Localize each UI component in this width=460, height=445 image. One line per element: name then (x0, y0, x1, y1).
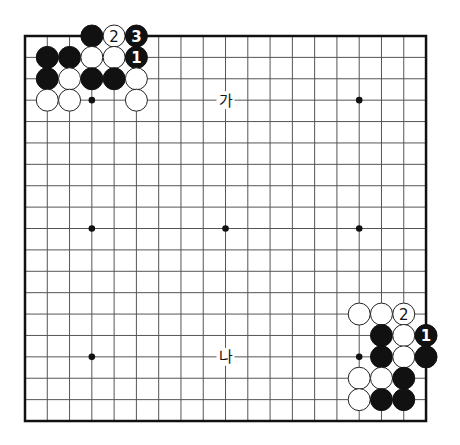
white-stone: 2 (393, 303, 415, 325)
white-stone (59, 68, 81, 90)
white-stone (81, 46, 103, 68)
white-stone-icon (103, 46, 125, 68)
white-stone: 2 (103, 25, 125, 47)
black-stone: 3 (125, 25, 147, 47)
black-stone-icon (415, 346, 437, 368)
move-number: 1 (421, 327, 431, 345)
black-stone (393, 367, 415, 389)
black-stone-icon (36, 46, 58, 68)
black-stone: 1 (415, 324, 437, 346)
star-point (89, 97, 96, 104)
star-point (89, 354, 96, 361)
white-stone (125, 89, 147, 111)
white-stone (348, 389, 370, 411)
white-stone-icon (370, 303, 392, 325)
move-number: 2 (399, 306, 409, 324)
point-label: 나 (217, 348, 235, 367)
black-stone: 1 (125, 46, 147, 68)
white-stone-icon (81, 46, 103, 68)
go-board-diagram: 가나 23121 (0, 0, 460, 445)
black-stone (59, 46, 81, 68)
black-stone-icon (103, 68, 125, 90)
white-stone (393, 324, 415, 346)
black-stone-icon (370, 389, 392, 411)
black-stone-icon (81, 25, 103, 47)
black-stone (81, 25, 103, 47)
white-stone-icon (348, 303, 370, 325)
black-stone-icon (36, 68, 58, 90)
point-label-text: 나 (219, 348, 233, 366)
white-stone (370, 303, 392, 325)
white-stone (36, 89, 58, 111)
white-stone-icon (125, 89, 147, 111)
white-stone-icon (348, 367, 370, 389)
white-stone-icon (393, 346, 415, 368)
white-stone-icon (370, 367, 392, 389)
white-stone-icon (393, 324, 415, 346)
black-stone (103, 68, 125, 90)
white-stone-icon (36, 89, 58, 111)
move-number: 3 (131, 28, 141, 46)
black-stone-icon (59, 46, 81, 68)
point-label-text: 가 (219, 92, 233, 110)
white-stone-icon (348, 389, 370, 411)
white-stone (348, 367, 370, 389)
star-point (222, 225, 229, 232)
black-stone (36, 68, 58, 90)
white-stone-icon (59, 89, 81, 111)
black-stone (393, 389, 415, 411)
white-stone (393, 346, 415, 368)
star-point (89, 225, 96, 232)
stones: 23121 (36, 25, 437, 411)
black-stone (370, 324, 392, 346)
white-stone (125, 68, 147, 90)
go-board: 가나 23121 (0, 0, 460, 445)
black-stone (81, 68, 103, 90)
move-number: 1 (131, 49, 141, 67)
black-stone (370, 389, 392, 411)
black-stone (415, 346, 437, 368)
white-stone (348, 303, 370, 325)
black-stone-icon (370, 346, 392, 368)
move-number: 2 (109, 28, 119, 46)
star-point (356, 225, 363, 232)
black-stone-icon (370, 324, 392, 346)
point-label: 가 (217, 91, 235, 110)
black-stone-icon (393, 367, 415, 389)
white-stone-icon (125, 68, 147, 90)
white-stone (103, 46, 125, 68)
black-stone (36, 46, 58, 68)
black-stone-icon (393, 389, 415, 411)
star-point (356, 354, 363, 361)
black-stone (370, 346, 392, 368)
white-stone-icon (59, 68, 81, 90)
star-point (356, 97, 363, 104)
white-stone (370, 367, 392, 389)
white-stone (59, 89, 81, 111)
black-stone-icon (81, 68, 103, 90)
